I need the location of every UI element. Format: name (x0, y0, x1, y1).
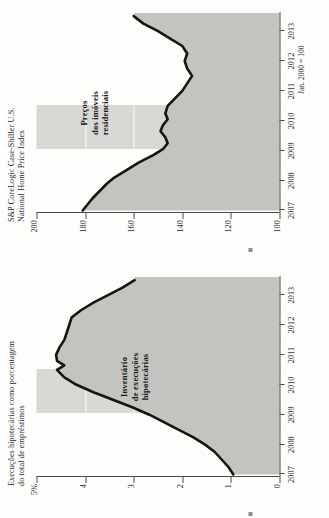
panel-corner-mark (248, 512, 252, 516)
chart-panel-home-prices: S&P CoreLogic Case-Shiller U.S. National… (0, 0, 329, 252)
panel-title-home-prices: S&P CoreLogic Case-Shiller U.S. National… (6, 7, 26, 222)
y-axis-foreclosures (36, 476, 279, 477)
x-tick-label: 2008 (286, 428, 295, 462)
x-tick-label: 2013 (286, 14, 295, 48)
x-axis-home-prices (279, 12, 280, 212)
panel-title-line1: Execuções hipotecárias como porcentagem (6, 271, 16, 486)
series-annotation-line1: Inventário (118, 334, 129, 420)
series-home-prices (36, 12, 279, 212)
x-axis-foreclosures (279, 276, 280, 476)
x-tick-label: 2011 (286, 74, 295, 108)
figure-stage: Execuções hipotecárias como porcentagem … (0, 0, 329, 518)
series-annotation-home-prices: Preços dos imóveis residenciais (78, 70, 110, 156)
y-tick-label: 160 (126, 220, 135, 254)
y-axis-home-prices (36, 212, 279, 213)
panel-title-line1: S&P CoreLogic Case-Shiller U.S. (6, 7, 16, 222)
y-tick-label: 100 (272, 220, 281, 254)
y-tick-label: 200 (29, 220, 38, 254)
plot-area-home-prices (36, 12, 279, 212)
series-annotation-line1: Preços (78, 70, 89, 156)
panel-title-line2: do total de empréstimos (16, 271, 26, 486)
y-tick-label: 120 (223, 220, 232, 254)
x-tick-label: 2011 (286, 338, 295, 372)
index-base-note: Jan. 2000 = 100 (296, 45, 305, 94)
y-tick-label: 180 (78, 220, 87, 254)
x-tick-label: 2010 (286, 104, 295, 138)
y-tick-label: 2 (175, 484, 184, 518)
series-annotation-line3: residenciais (99, 70, 110, 156)
x-tick-label: 2009 (286, 398, 295, 432)
x-tick-label: 2013 (286, 278, 295, 312)
plot-area-foreclosures (36, 276, 279, 476)
x-tick-label: 2009 (286, 134, 295, 168)
series-annotation-line3: hipotecárias (139, 334, 150, 420)
series-annotation-line2: dos imóveis (89, 70, 100, 156)
y-tick-label: 140 (175, 220, 184, 254)
x-tick-label: 2007 (286, 194, 295, 228)
y-tick-label: 4 (78, 484, 87, 518)
panel-corner-mark (248, 248, 252, 252)
y-tick-label: 5% (29, 484, 38, 518)
panel-title-line2: National Home Price Index (16, 7, 26, 222)
chart-panel-foreclosures: Execuções hipotecárias como porcentagem … (0, 264, 329, 516)
x-tick-label: 2007 (286, 458, 295, 492)
x-tick-label: 2008 (286, 164, 295, 198)
series-annotation-line2: de execuções (129, 334, 140, 420)
x-tick-label: 2010 (286, 368, 295, 402)
series-foreclosures (36, 276, 279, 476)
x-tick-label: 2012 (286, 308, 295, 342)
x-tick-label: 2012 (286, 44, 295, 78)
y-tick-label: 3 (126, 484, 135, 518)
y-tick-label: 0 (272, 484, 281, 518)
panel-title-foreclosures: Execuções hipotecárias como porcentagem … (6, 271, 26, 486)
y-tick-label: 1 (223, 484, 232, 518)
series-annotation-foreclosures: Inventário de execuções hipotecárias (118, 334, 150, 420)
